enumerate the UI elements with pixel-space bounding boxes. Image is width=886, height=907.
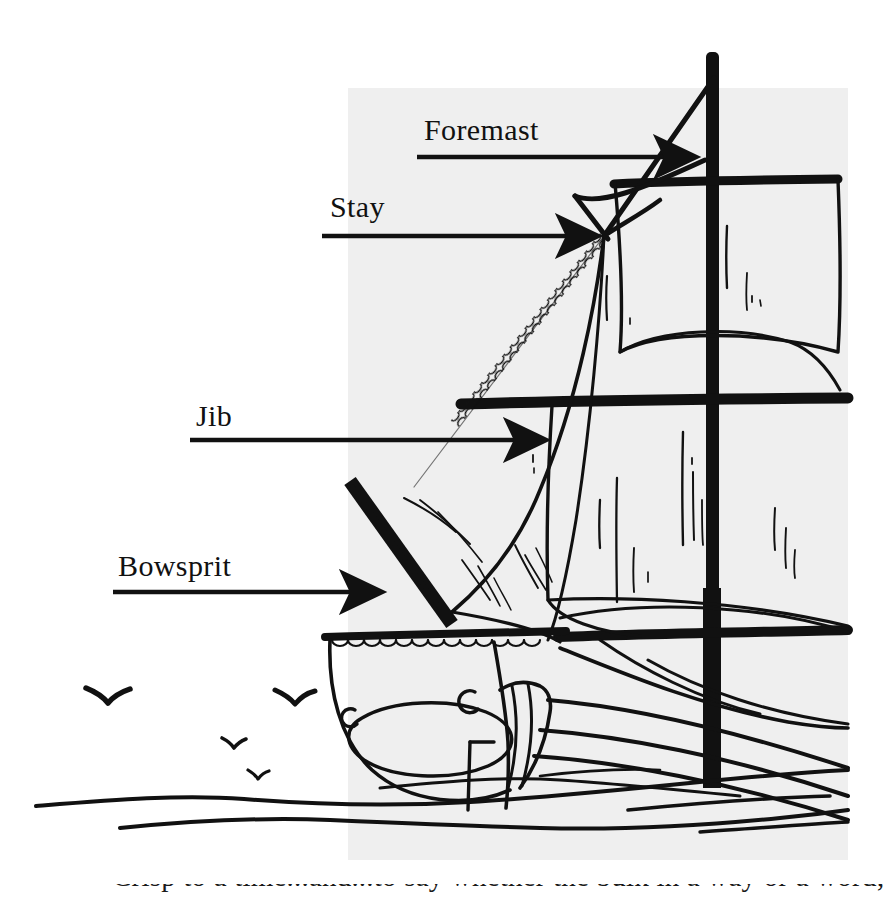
seagull-icon — [248, 770, 269, 779]
page-caption-strip: Crisp to a time...and...to say whether t… — [0, 884, 886, 907]
label-jib: Jib — [196, 401, 232, 431]
seagull-icon — [222, 738, 246, 748]
label-foremast: Foremast — [424, 115, 539, 145]
label-bowsprit: Bowsprit — [118, 551, 231, 581]
figure-page: Foremast Stay Jib Bowsprit Crisp to a ti… — [0, 0, 886, 907]
seagull-icon — [275, 690, 315, 704]
page-caption-text: Crisp to a time...and...to say whether t… — [112, 884, 885, 893]
seagull-group — [86, 688, 315, 779]
label-stay: Stay — [330, 192, 385, 222]
illustration-background-panel — [348, 88, 848, 860]
seagull-icon — [86, 688, 130, 703]
